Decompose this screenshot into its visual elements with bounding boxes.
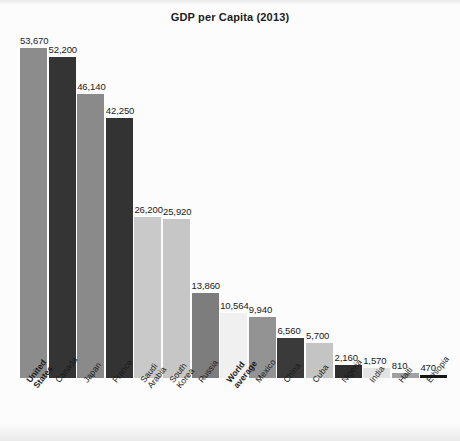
bar-value-label: 25,920 — [163, 206, 191, 217]
gdp-bar-chart: GDP per Capita (2013) 53,67052,20046,140… — [0, 0, 460, 441]
plot-area: 53,67052,20046,14042,25026,20025,92013,8… — [0, 26, 460, 378]
bar-value-label: 52,200 — [49, 44, 77, 55]
bar-value-label: 42,250 — [106, 105, 134, 116]
bar[interactable] — [134, 217, 161, 378]
bar[interactable] — [20, 48, 47, 378]
bar-value-label: 46,140 — [77, 81, 105, 92]
bar[interactable] — [106, 118, 133, 378]
bar-value-label: 6,560 — [277, 325, 300, 336]
bar-value-label: 5,700 — [306, 330, 329, 341]
bar-value-label: 53,670 — [20, 35, 48, 46]
bar[interactable] — [163, 219, 190, 378]
bar-value-label: 1,570 — [363, 355, 386, 366]
bar-value-label: 10,564 — [220, 300, 248, 311]
bar-value-label: 13,860 — [192, 280, 220, 291]
chart-title: GDP per Capita (2013) — [0, 11, 460, 23]
bar[interactable] — [77, 94, 104, 378]
bar-value-label: 26,200 — [134, 204, 162, 215]
scan-edge-top — [0, 0, 460, 5]
bar-value-label: 9,940 — [249, 304, 272, 315]
bar[interactable] — [49, 57, 76, 378]
x-axis-label-group: UnitedStatesCanadaJapanFranceSaudiArabia… — [0, 379, 460, 441]
